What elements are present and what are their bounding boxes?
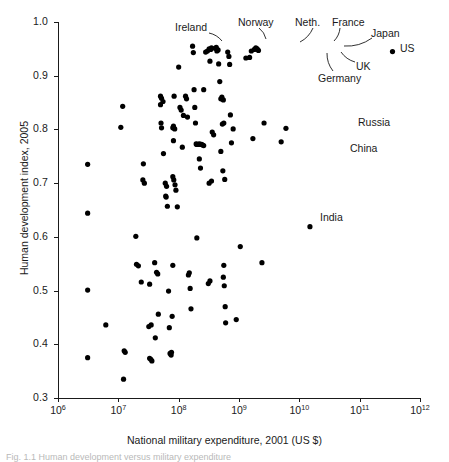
data-point (214, 48, 219, 53)
data-point (247, 55, 252, 60)
data-point (250, 136, 255, 141)
y-tick-label: 0.3 (22, 392, 48, 403)
x-tick-label: 1012 (403, 405, 437, 416)
data-point (186, 272, 191, 277)
data-point (198, 166, 203, 171)
data-point (103, 322, 108, 327)
data-point (152, 260, 157, 265)
data-point (223, 304, 228, 309)
data-point (139, 279, 144, 284)
data-point (142, 181, 147, 186)
data-point (85, 287, 90, 292)
data-point (221, 120, 226, 125)
data-point (155, 271, 160, 276)
annotation-label-china: China (350, 143, 377, 154)
data-point (85, 211, 90, 216)
figure-container: 0.30.40.50.60.70.80.91.01061071081091010… (0, 0, 449, 462)
data-point (201, 87, 206, 92)
data-point (120, 104, 125, 109)
annotation-label-uk: UK (356, 61, 371, 72)
data-point (171, 177, 176, 182)
data-point (207, 278, 212, 283)
data-point (218, 149, 223, 154)
annotation-label-france: France (332, 17, 365, 28)
data-point (211, 132, 216, 137)
data-point (172, 94, 177, 99)
data-point (238, 244, 243, 249)
data-point (176, 65, 181, 70)
x-tick-label: 109 (222, 405, 256, 416)
annotation-label-russia: Russia (358, 117, 390, 128)
data-point (283, 126, 288, 131)
data-point (194, 235, 199, 240)
annotation-leader-lines (209, 28, 372, 71)
leader-line-ireland (209, 33, 222, 41)
data-point (261, 120, 266, 125)
data-point (118, 125, 123, 130)
data-point (85, 162, 90, 167)
data-point (228, 112, 233, 117)
data-point (136, 263, 141, 268)
annotation-label-india: India (320, 212, 343, 223)
data-point (259, 260, 264, 265)
leader-line-germany (327, 53, 333, 71)
data-point (172, 182, 177, 187)
data-points (85, 44, 395, 382)
data-point (156, 312, 161, 317)
data-point (226, 54, 231, 59)
x-tick-label: 1010 (282, 405, 316, 416)
data-point (227, 62, 232, 67)
data-point (161, 151, 166, 156)
data-point (221, 263, 226, 268)
data-point (207, 181, 212, 186)
data-point (207, 59, 212, 64)
data-point (171, 138, 176, 143)
x-tick-label: 108 (162, 405, 196, 416)
data-point (222, 177, 227, 182)
data-point (159, 125, 164, 130)
data-point (172, 126, 177, 131)
data-point (173, 188, 178, 193)
data-point (229, 140, 234, 145)
data-point (188, 286, 193, 291)
data-point (180, 145, 185, 150)
annotation-label-japan: Japan (371, 28, 400, 39)
leader-line-norway (259, 28, 266, 39)
data-point (256, 48, 261, 53)
x-tick-label: 106 (41, 405, 75, 416)
data-point (216, 61, 221, 66)
data-point (169, 350, 174, 355)
data-point (121, 377, 126, 382)
data-point (185, 114, 190, 119)
data-point (390, 49, 395, 54)
data-point (190, 44, 195, 49)
data-point (279, 139, 284, 144)
data-point (307, 224, 312, 229)
leader-line-france (334, 28, 340, 41)
annotation-label-germany: Germany (318, 73, 361, 84)
leader-line-uk (341, 52, 355, 62)
data-point (175, 204, 180, 209)
data-point (149, 358, 154, 363)
axes (54, 22, 421, 402)
data-point (191, 50, 196, 55)
x-tick-label: 107 (101, 405, 135, 416)
data-point (193, 120, 198, 125)
annotation-label-us: US (400, 43, 415, 54)
y-tick-label: 0.9 (22, 70, 48, 81)
data-point (164, 184, 169, 189)
data-point (147, 282, 152, 287)
data-point (197, 156, 202, 161)
data-point (158, 120, 163, 125)
figure-caption: Fig. 1.1 Human development versus milita… (6, 452, 446, 462)
data-point (158, 102, 163, 107)
y-tick-label: 0.4 (22, 338, 48, 349)
data-point (184, 96, 189, 101)
data-point (188, 306, 193, 311)
data-point (217, 79, 222, 84)
data-point (201, 143, 206, 148)
data-point (167, 325, 172, 330)
scatter-plot (0, 0, 449, 462)
leader-line-neth (300, 28, 313, 42)
annotation-label-norway: Norway (238, 17, 274, 28)
